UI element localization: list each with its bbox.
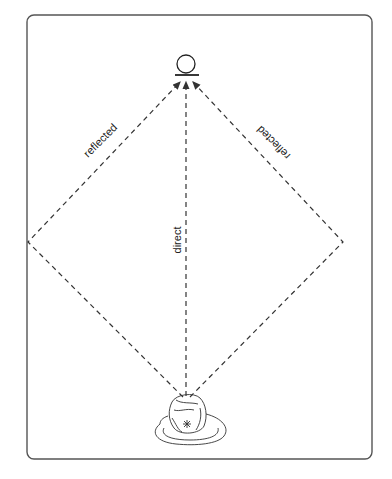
diagram-canvas: direct reflected reflected	[0, 0, 392, 479]
label-direct: direct	[171, 227, 183, 254]
label-reflected-right: reflected	[254, 124, 292, 162]
sound-source-icon	[175, 55, 199, 75]
label-reflected-left: reflected	[81, 121, 119, 159]
room-frame	[27, 15, 372, 459]
listener-icon	[155, 395, 226, 445]
